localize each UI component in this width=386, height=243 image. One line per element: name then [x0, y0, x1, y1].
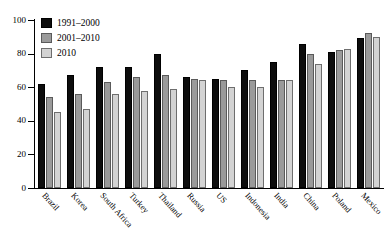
x-axis-line: [34, 188, 384, 189]
y-axis-tick: [28, 121, 34, 122]
bar: [125, 67, 132, 188]
y-axis-tick: [28, 87, 34, 88]
y-axis-tick-label: 0: [2, 184, 26, 193]
x-axis-tick-label: Indonesia: [243, 191, 272, 222]
legend-swatch-light-gray: [41, 48, 52, 58]
bar: [373, 37, 380, 188]
legend-label: 2010: [57, 48, 76, 58]
chart-legend: 1991–20002001–20102010: [41, 16, 100, 61]
bar: [336, 50, 343, 188]
bar: [328, 52, 335, 188]
bar: [170, 89, 177, 188]
y-axis-tick-label: 60: [2, 83, 26, 92]
bar-group: [270, 20, 293, 188]
bar: [162, 75, 169, 188]
bar: [315, 64, 322, 188]
bar-group: [299, 20, 322, 188]
y-axis-tick: [28, 154, 34, 155]
bar: [38, 84, 45, 188]
y-axis-tick-label: 80: [2, 49, 26, 58]
bar: [191, 79, 198, 188]
bar: [212, 79, 219, 188]
bar-group: [183, 20, 206, 188]
y-axis-tick-label: 40: [2, 116, 26, 125]
bar-chart-figure: 020406080100 BrazilKoreaSouth AfricaTurk…: [0, 0, 386, 243]
x-axis-tick-label: China: [301, 191, 321, 212]
x-axis-tick-label: Mexico: [359, 191, 383, 216]
bar: [154, 54, 161, 188]
bar: [104, 82, 111, 188]
bar-group: [212, 20, 235, 188]
bar: [344, 49, 351, 188]
bar: [67, 75, 74, 188]
bar: [257, 87, 264, 188]
bar: [199, 80, 206, 188]
bar: [183, 77, 190, 188]
legend-item: 2001–2010: [41, 31, 100, 45]
bar: [241, 70, 248, 188]
bar-group: [357, 20, 380, 188]
x-axis-tick-label: US: [214, 191, 228, 205]
bar: [270, 62, 277, 188]
bar: [365, 33, 372, 188]
bar: [249, 80, 256, 188]
bar: [133, 77, 140, 188]
legend-swatch-gray: [41, 33, 52, 43]
bar-group: [154, 20, 177, 188]
x-axis-tick-label: Brazil: [40, 191, 61, 212]
bar: [299, 44, 306, 188]
bar: [112, 94, 119, 188]
bar: [220, 80, 227, 188]
x-axis-tick-label: India: [272, 191, 290, 210]
bar: [278, 80, 285, 188]
bar: [141, 91, 148, 188]
x-axis-tick-label: Poland: [330, 191, 352, 215]
legend-label: 2001–2010: [57, 33, 100, 43]
x-axis-tick-label: Russia: [185, 191, 207, 214]
bar-group: [125, 20, 148, 188]
bar: [96, 67, 103, 188]
y-axis-tick-label: 20: [2, 150, 26, 159]
bar-group: [328, 20, 351, 188]
bar: [83, 109, 90, 188]
bar: [75, 94, 82, 188]
bar: [357, 38, 364, 188]
x-axis-tick-label: Korea: [69, 191, 90, 212]
y-axis-tick: [28, 54, 34, 55]
legend-swatch-black: [41, 18, 52, 28]
y-axis-tick: [28, 188, 34, 189]
bar: [46, 97, 53, 188]
x-axis-tick-label: Thailand: [156, 191, 183, 219]
bar-group: [241, 20, 264, 188]
bar: [228, 87, 235, 188]
y-axis-tick: [28, 20, 34, 21]
y-axis-tick-label: 100: [2, 16, 26, 25]
legend-label: 1991–2000: [57, 18, 100, 28]
legend-item: 1991–2000: [41, 16, 100, 30]
x-axis-tick-label: Turkey: [127, 191, 150, 215]
legend-item: 2010: [41, 46, 100, 60]
bar: [286, 80, 293, 188]
bar: [54, 112, 61, 188]
bar: [307, 54, 314, 188]
